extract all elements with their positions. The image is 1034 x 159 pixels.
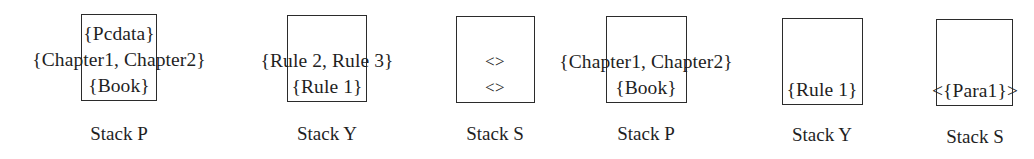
stack-box-stack-s-2 (936, 19, 1013, 106)
stack-box-stack-y-1 (287, 15, 367, 102)
stack-box-stack-p-1 (81, 14, 157, 101)
stack-unit-stack-p-2: {Chapter1, Chapter2} {Book} Stack P (556, 0, 750, 159)
stack-caption: Stack Y (297, 123, 357, 145)
stack-caption: Stack P (90, 123, 148, 145)
stack-state-diagram: {Pcdata} {Chapter1, Chapter2} {Book} Sta… (0, 0, 1034, 159)
stack-caption: Stack S (946, 126, 1004, 148)
stack-caption: Stack S (466, 123, 524, 145)
stack-box-stack-s-1 (456, 16, 535, 103)
stack-unit-stack-s-1: <> <> Stack S (418, 0, 556, 159)
stack-caption: Stack P (617, 123, 675, 145)
stack-box-stack-p-2 (606, 16, 687, 103)
stack-unit-stack-y-2: {Rule 1} Stack Y (750, 0, 904, 159)
stack-unit-stack-s-2: <{Para1}> Stack S (904, 0, 1034, 159)
stack-unit-stack-y-1: {Rule 2, Rule 3} {Rule 1} Stack Y (238, 0, 418, 159)
stack-box-stack-y-2 (782, 18, 863, 105)
stack-unit-stack-p-1: {Pcdata} {Chapter1, Chapter2} {Book} Sta… (0, 0, 238, 159)
stack-caption: Stack Y (792, 124, 852, 146)
